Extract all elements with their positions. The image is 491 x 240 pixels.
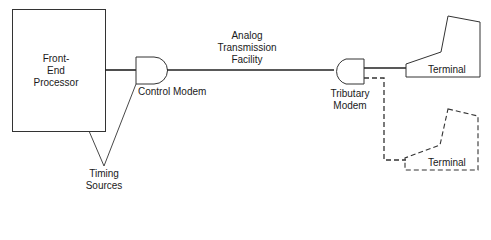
tributary-line1: Tributary bbox=[325, 88, 375, 100]
analog-line1: Analog bbox=[212, 30, 282, 42]
timing-line1: Timing bbox=[82, 168, 126, 180]
terminal-2-label: Terminal bbox=[428, 157, 466, 169]
control-modem-icon bbox=[136, 57, 168, 84]
tributary-modem-icon bbox=[337, 59, 364, 84]
analog-line2: Transmission bbox=[212, 42, 282, 54]
control-modem-label: Control Modem bbox=[138, 86, 206, 98]
front-end-processor-label: Front- End Processor bbox=[30, 53, 82, 89]
timing-line2: Sources bbox=[82, 180, 126, 192]
tributary-line2: Modem bbox=[325, 100, 375, 112]
analog-facility-label: Analog Transmission Facility bbox=[212, 30, 282, 66]
terminal-1-label: Terminal bbox=[428, 64, 466, 76]
timing-line-fep bbox=[89, 131, 104, 166]
tributary-modem-label: Tributary Modem bbox=[325, 88, 375, 112]
timing-line-modem bbox=[104, 84, 136, 166]
timing-sources-label: Timing Sources bbox=[82, 168, 126, 192]
fep-line3: Processor bbox=[30, 77, 82, 89]
fep-line2: End bbox=[30, 65, 82, 77]
fep-line1: Front- bbox=[30, 53, 82, 65]
analog-line3: Facility bbox=[212, 54, 282, 66]
